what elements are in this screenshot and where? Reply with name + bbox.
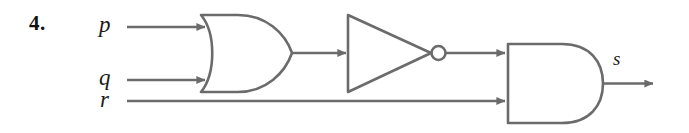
- or-gate-shape: [201, 15, 292, 92]
- circuit-drawing: [0, 0, 689, 133]
- logic-circuit-figure: 4. p q r s: [0, 0, 689, 133]
- not-gate-bubble-icon: [432, 46, 446, 60]
- and-gate-shape: [508, 44, 603, 123]
- not-gate-shape: [348, 15, 431, 92]
